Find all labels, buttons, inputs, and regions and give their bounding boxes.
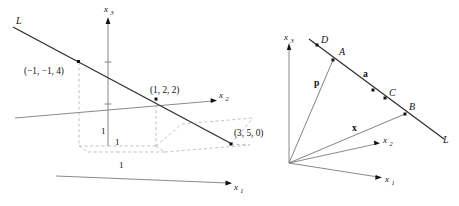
left-point-label-p2: (1, 2, 2) (150, 85, 179, 96)
left-axis-x1-arrowhead (225, 181, 232, 186)
right-line-L-label: L (442, 134, 449, 145)
left-point-marker-p1 (77, 60, 80, 63)
figure-canvas: x 3 x 2 x 1 1 1 1 L (0, 0, 459, 206)
right-axis-x3-arrowhead (287, 43, 291, 50)
left-tick-label-x2: 1 (115, 137, 120, 147)
left-dashed-base-p2-b (156, 146, 165, 152)
left-panel: x 3 x 2 x 1 1 1 1 L (13, 4, 263, 194)
left-dashed-base-p1-b (79, 146, 88, 152)
right-point-marker-C (384, 97, 387, 100)
right-point-label-C: C (389, 87, 396, 98)
right-axis-x1-subscript: 1 (391, 179, 394, 186)
left-axis-x2-label: x (218, 90, 223, 100)
right-axis-x1-arrowhead (375, 175, 382, 180)
right-axis-x2-line (289, 144, 376, 163)
left-tick-label-x1: 1 (119, 160, 124, 170)
left-dashed-base-p3-e (231, 144, 250, 145)
left-line-L (13, 27, 232, 144)
left-dashed-base-p3-a (165, 145, 250, 152)
left-axis-x1-subscript: 1 (240, 187, 243, 194)
figure-root: x 3 x 2 x 1 1 1 1 L (0, 0, 459, 206)
left-dashed-base-p3-b (156, 124, 182, 146)
right-point-label-A: A (338, 46, 346, 57)
right-axis-x2-label: x (382, 135, 387, 145)
left-point-label-p1: (−1, −1, 4) (24, 66, 64, 77)
right-axis-x2-subscript: 2 (389, 140, 393, 147)
right-panel: x 3 x 2 x 1 L p x a (283, 32, 449, 186)
left-axis-x2-arrowhead (211, 98, 217, 103)
right-axis-x3-subscript: 3 (289, 37, 293, 44)
right-point-marker-B (404, 113, 407, 116)
right-axis-x2-arrowhead (374, 141, 380, 146)
left-axis-x2-line (15, 101, 213, 118)
left-line-L-label: L (15, 15, 22, 26)
right-point-label-D: D (320, 34, 329, 45)
left-point-marker-p3 (230, 143, 233, 146)
right-axis-x3-label: x (283, 32, 288, 42)
left-axis-x3-arrowhead (106, 17, 111, 24)
left-axis-x2-subscript: 2 (225, 95, 229, 102)
right-vector-a-label: a (363, 68, 368, 79)
right-point-marker-A (332, 59, 335, 62)
left-axis-x3-subscript: 3 (110, 9, 114, 16)
right-point-label-B: B (409, 101, 415, 112)
left-axis-x1-line (56, 176, 228, 183)
right-vector-p-label: p (314, 77, 319, 88)
left-point-label-p3: (3, 5, 0) (234, 128, 263, 139)
left-point-marker-p2 (155, 98, 158, 101)
right-point-marker-a-mid (372, 89, 375, 92)
left-axis-x3-label: x (103, 4, 108, 14)
right-axis-x1-line (289, 163, 378, 177)
right-axis-x1-label: x (384, 174, 389, 184)
right-line-L (309, 39, 444, 139)
right-point-marker-D (316, 44, 319, 47)
right-vector-x-label: x (352, 122, 357, 133)
left-tick-label-x3: 1 (101, 126, 106, 136)
left-axis-x1-label: x (233, 182, 238, 192)
